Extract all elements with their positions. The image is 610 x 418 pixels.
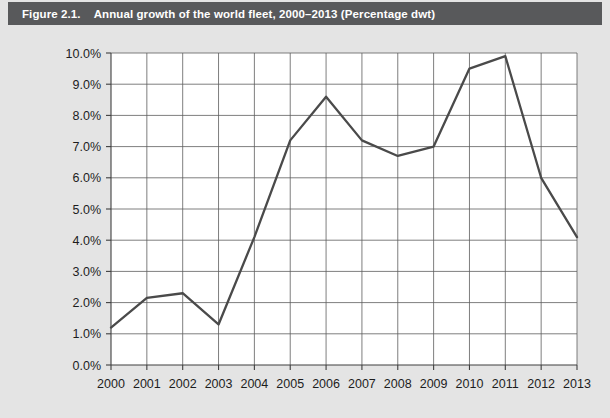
y-axis-tick-label: 1.0%: [73, 327, 102, 341]
y-axis-tick-labels: 0.0%1.0%2.0%3.0%4.0%5.0%6.0%7.0%8.0%9.0%…: [66, 47, 101, 373]
x-axis-tick-label: 2006: [312, 377, 340, 391]
chart-region: 0.0%1.0%2.0%3.0%4.0%5.0%6.0%7.0%8.0%9.0%…: [8, 27, 602, 415]
x-axis-tick-label: 2011: [492, 377, 519, 391]
x-axis-tick-label: 2001: [133, 377, 161, 391]
y-axis-tick-marks: [106, 53, 111, 365]
x-axis-tick-marks: [111, 365, 577, 370]
x-axis-tick-label: 2012: [527, 377, 555, 391]
x-axis-tick-label: 2003: [205, 377, 233, 391]
x-axis-tick-label: 2002: [169, 377, 197, 391]
x-axis-tick-label: 2008: [384, 377, 412, 391]
x-axis-tick-label: 2013: [563, 377, 591, 391]
y-axis-tick-label: 2.0%: [73, 296, 102, 310]
y-axis-tick-label: 9.0%: [73, 78, 102, 92]
y-axis-tick-label: 6.0%: [73, 171, 102, 185]
y-axis-tick-label: 0.0%: [73, 359, 102, 373]
y-axis-tick-label: 3.0%: [73, 265, 102, 279]
x-axis-tick-label: 2000: [97, 377, 125, 391]
figure-title: Annual growth of the world fleet, 2000–2…: [94, 8, 436, 20]
x-axis-tick-labels: 2000200120022003200420052006200720082009…: [97, 377, 591, 391]
x-axis-tick-label: 2005: [276, 377, 304, 391]
y-axis-tick-label: 8.0%: [73, 109, 102, 123]
y-axis-tick-label: 4.0%: [73, 234, 102, 248]
figure-card: Figure 2.1. Annual growth of the world f…: [0, 0, 610, 418]
y-axis-tick-label: 7.0%: [73, 140, 102, 154]
y-axis-tick-label: 5.0%: [73, 203, 102, 217]
x-axis-tick-label: 2010: [456, 377, 484, 391]
x-axis-tick-label: 2007: [348, 377, 376, 391]
line-chart: 0.0%1.0%2.0%3.0%4.0%5.0%6.0%7.0%8.0%9.0%…: [8, 27, 602, 415]
x-axis-tick-label: 2004: [240, 377, 268, 391]
figure-title-bar: Figure 2.1. Annual growth of the world f…: [8, 2, 602, 25]
figure-number: Figure 2.1.: [22, 8, 81, 20]
x-axis-tick-label: 2009: [420, 377, 448, 391]
y-axis-tick-label: 10.0%: [66, 47, 101, 61]
